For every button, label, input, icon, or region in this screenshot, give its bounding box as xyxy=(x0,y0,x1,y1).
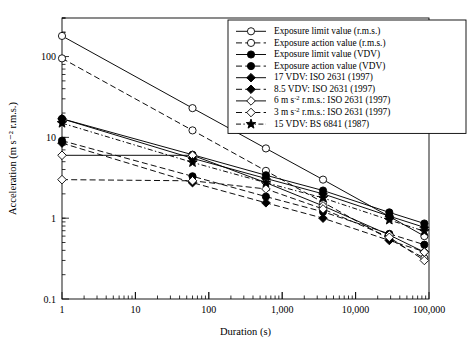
chart-figure: 1101001,00010,000100,0000.1110100 Exposu… xyxy=(0,0,474,340)
data-marker-open-circle xyxy=(58,55,65,62)
data-marker-open-circle xyxy=(262,145,269,152)
legend-label: 6 m s-2 r.m.s.: ISO 2631 (1997) xyxy=(274,94,390,107)
legend-label: Exposure limit value (r.m.s.) xyxy=(274,26,380,37)
x-tick-label: 100,000 xyxy=(413,304,446,315)
legend-label: Exposure limit value (VDV) xyxy=(274,49,380,60)
x-tick-label: 100 xyxy=(201,304,216,315)
data-marker-open-circle xyxy=(58,32,65,39)
legend-label: Exposure action value (VDV) xyxy=(274,61,385,72)
data-marker-open-circle xyxy=(319,176,326,183)
legend-label: Exposure action value (r.m.s.) xyxy=(274,38,386,49)
legend-label: 3 m s-2 r.m.s.: ISO 2631 (1997) xyxy=(274,106,390,119)
chart-canvas: 1101001,00010,000100,0000.1110100 Exposu… xyxy=(0,0,474,340)
x-tick-label: 1 xyxy=(60,304,65,315)
y-tick-label: 0.1 xyxy=(44,294,57,305)
legend-label: 17 VDV: ISO 2631 (1997) xyxy=(274,72,373,83)
chart-legend: Exposure limit value (r.m.s.)Exposure ac… xyxy=(228,20,466,133)
legend-label: 8.5 VDV: ISO 2631 (1997) xyxy=(274,84,375,95)
data-marker-filled-circle xyxy=(247,63,254,70)
data-marker-open-circle xyxy=(189,105,196,112)
x-tick-label: 10,000 xyxy=(342,304,370,315)
x-tick-label: 10 xyxy=(130,304,140,315)
y-axis-title: Acceleration (m s⁻² r.m.s.) xyxy=(7,102,19,215)
y-tick-label: 100 xyxy=(41,51,56,62)
data-marker-open-circle xyxy=(247,39,254,46)
y-tick-label: 1 xyxy=(51,213,56,224)
y-tick-label: 10 xyxy=(46,132,56,143)
legend-label: 15 VDV: BS 6841 (1987) xyxy=(274,119,369,130)
data-marker-open-circle xyxy=(247,28,254,35)
x-tick-label: 1,000 xyxy=(271,304,294,315)
data-marker-open-circle xyxy=(189,127,196,134)
x-axis-title: Duration (s) xyxy=(220,326,272,338)
data-marker-filled-circle xyxy=(247,51,254,58)
